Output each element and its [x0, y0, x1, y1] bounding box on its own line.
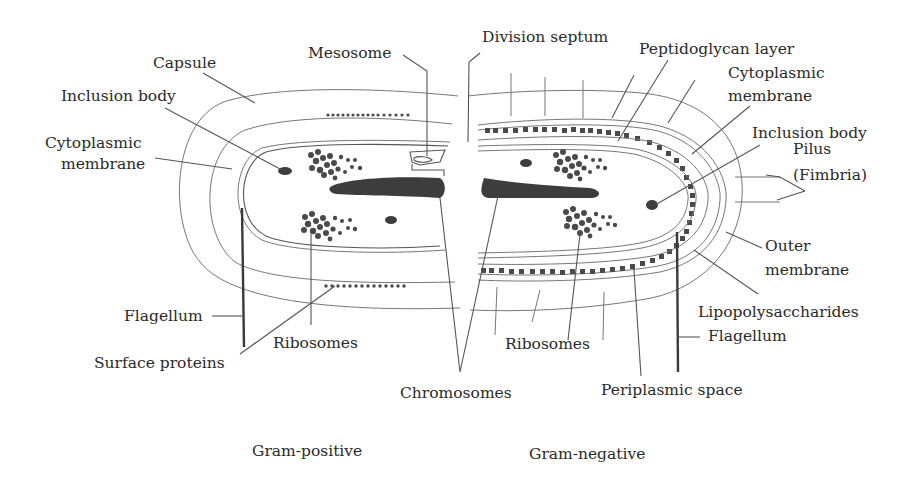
chromosome-left [329, 177, 445, 198]
bacterial-cell-diagram: Capsule Mesosome Division septum Inclusi… [0, 0, 917, 486]
label-mesosome: Mesosome [308, 44, 392, 62]
flagellum-left [242, 208, 244, 347]
label-outer-membrane-2: membrane [765, 261, 849, 279]
caption-gram-negative: Gram-negative [529, 445, 645, 463]
label-cytoplasmic-membrane-right-2: membrane [728, 87, 812, 105]
label-division-septum: Division septum [482, 28, 609, 46]
ribosomes-cluster-upper-right [553, 149, 607, 181]
label-inclusion-body-left: Inclusion body [61, 87, 176, 105]
flagellum-right [677, 232, 678, 372]
caption-gram-positive: Gram-positive [252, 442, 362, 460]
inclusion-body-left-2 [385, 216, 397, 224]
label-lipopolysaccharides: Lipopolysaccharides [698, 303, 859, 321]
inclusion-body-left [278, 167, 292, 175]
surface-proteins-top [326, 113, 409, 116]
label-cytoplasmic-membrane-right-1: Cytoplasmic [728, 64, 825, 82]
label-flagellum-left: Flagellum [124, 307, 203, 325]
label-chromosomes: Chromosomes [400, 384, 512, 402]
ribosomes-cluster-lower-left [301, 211, 357, 241]
ribosomes-cluster-lower-right [563, 206, 617, 238]
label-pilus-2: (Fimbria) [793, 166, 867, 184]
label-pilus-1: Pilus [793, 140, 831, 158]
label-cytoplasmic-membrane-left-1: Cytoplasmic [45, 134, 142, 152]
ribosomes-cluster-upper-left [308, 149, 362, 180]
labels: Capsule Mesosome Division septum Inclusi… [45, 28, 867, 463]
label-periplasmic-space: Periplasmic space [601, 381, 743, 399]
chromosome-right [481, 178, 599, 198]
gram-positive-cell [179, 90, 460, 347]
label-flagellum-right: Flagellum [708, 327, 787, 345]
label-ribosomes-right: Ribosomes [505, 335, 590, 353]
label-ribosomes-left: Ribosomes [273, 334, 358, 352]
surface-proteins-bottom [324, 284, 405, 287]
label-cytoplasmic-membrane-left-2: membrane [61, 155, 145, 173]
label-peptidoglycan-layer: Peptidoglycan layer [639, 40, 795, 58]
label-capsule: Capsule [153, 54, 216, 72]
label-outer-membrane-1: Outer [765, 237, 811, 255]
inclusion-body-right [646, 200, 658, 210]
label-surface-proteins: Surface proteins [94, 354, 225, 372]
inclusion-body-right-2 [520, 159, 532, 167]
